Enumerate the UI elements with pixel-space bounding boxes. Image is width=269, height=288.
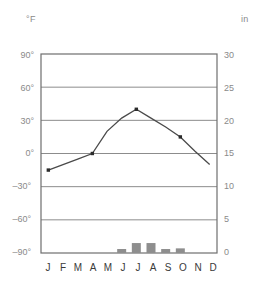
temperature-data-point	[91, 152, 94, 155]
gridlines	[41, 87, 217, 220]
climograph-plot-area	[0, 0, 269, 288]
precipitation-bar	[147, 243, 156, 253]
precipitation-bar	[132, 243, 141, 253]
temperature-data-point	[135, 108, 138, 111]
temperature-data-point	[47, 168, 50, 171]
precipitation-bar	[176, 248, 185, 253]
precipitation-bars	[117, 243, 185, 253]
temperature-markers	[47, 108, 182, 172]
temperature-data-point	[179, 135, 182, 138]
precipitation-bar	[161, 249, 170, 253]
temperature-line	[48, 109, 209, 170]
precipitation-bar	[117, 249, 126, 253]
